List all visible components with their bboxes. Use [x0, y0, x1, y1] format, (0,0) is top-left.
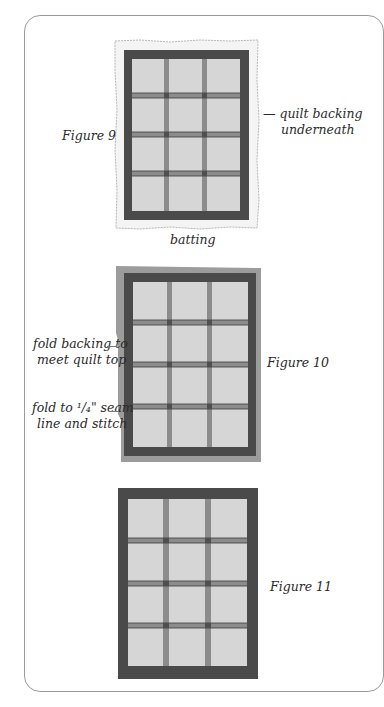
fold-backing-leader-line [107, 346, 117, 347]
figure-10-illustration [116, 266, 261, 462]
fold-backing-label-line1: fold backing to [33, 336, 128, 351]
fold-seam-leader-line [109, 411, 119, 412]
fold-backing-label-line2: meet quilt top [37, 352, 126, 367]
figure-9-caption: Figure 9 [62, 128, 116, 143]
figure-11-illustration [118, 488, 258, 679]
fold-seam-label-line1: fold to ¹/₄" seam [32, 400, 134, 415]
quilt-backing-label-line1: — quilt backing [263, 106, 363, 121]
figure-9-illustration [115, 40, 259, 229]
figure-11-caption: Figure 11 [270, 579, 332, 594]
fold-seam-label-line2: line and stitch [37, 416, 127, 431]
quilt-backing-label-line2: underneath [281, 122, 354, 137]
batting-label: batting [170, 232, 216, 247]
figure-10-caption: Figure 10 [267, 355, 329, 370]
